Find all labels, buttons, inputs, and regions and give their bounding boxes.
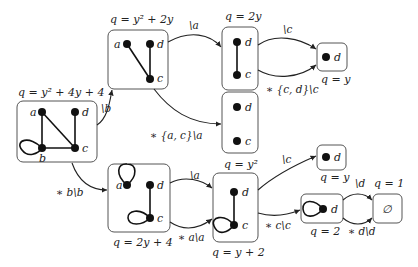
box-f: a d c q = 2y + 4 bbox=[108, 164, 173, 249]
vertex-label-a: a bbox=[116, 179, 123, 192]
transition-label: ∗ c\c bbox=[265, 219, 291, 231]
vertex-a bbox=[38, 108, 46, 116]
transition-label: ∗ {a, c}\a bbox=[150, 129, 202, 142]
box-j: ∅ q = 1 bbox=[373, 177, 404, 223]
vertex-label-d: d bbox=[245, 101, 252, 114]
label-d: q = y bbox=[321, 73, 351, 86]
transition-i-j-star bbox=[343, 218, 372, 224]
vertex-c bbox=[71, 144, 79, 152]
transition-label: ∗ {c, d}\c bbox=[266, 83, 319, 96]
transition-b-e bbox=[154, 89, 221, 124]
transition-label: \c bbox=[282, 153, 292, 165]
vertex-label-d: d bbox=[242, 186, 249, 199]
vertex-label-c: c bbox=[82, 142, 88, 155]
box-i: d q = 2 bbox=[301, 194, 343, 238]
transition-label: ∗ d\d bbox=[348, 225, 376, 237]
vertex-label-d: d bbox=[334, 51, 341, 64]
transition-label: \a bbox=[189, 19, 199, 31]
vertex-b bbox=[38, 144, 46, 152]
box-g: d c q = y + 2 bbox=[212, 173, 265, 259]
box-a: q = y² + 4y + 4 a d b c bbox=[17, 86, 105, 165]
box-b: q = y² + 2y a d c bbox=[108, 13, 174, 89]
empty-set: ∅ bbox=[382, 203, 392, 216]
label-f: q = 2y + 4 bbox=[113, 236, 173, 249]
transition-c-d bbox=[258, 38, 316, 49]
vertex-label-d: d bbox=[331, 203, 338, 216]
vertex-label-c: c bbox=[157, 72, 163, 85]
label-c: q = 2y bbox=[225, 10, 262, 23]
box-c: q = 2y d c bbox=[222, 10, 262, 90]
label-b: q = y² + 2y bbox=[110, 13, 174, 26]
label-h: q = y bbox=[320, 171, 350, 184]
vertex-label-d: d bbox=[157, 179, 164, 192]
transition-label: \b bbox=[101, 102, 112, 114]
label-j: q = 1 bbox=[374, 177, 404, 190]
vertex-d bbox=[71, 108, 79, 116]
vertex-label-d: d bbox=[157, 38, 164, 51]
vertex-label-d: d bbox=[82, 106, 89, 119]
graph-diagram: q = y² + 4y + 4 a d b c q = y² + 2y a d … bbox=[0, 0, 418, 267]
vertex-label-d: d bbox=[334, 151, 341, 164]
vertex-label-a: a bbox=[30, 106, 37, 119]
transition-g-i bbox=[258, 210, 300, 215]
box-h: d q = y bbox=[317, 145, 350, 184]
transition-i-j bbox=[343, 194, 372, 200]
vertex-label-c: c bbox=[157, 212, 163, 225]
transition-c-d-star bbox=[258, 65, 316, 76]
vertex-label-c: c bbox=[242, 219, 248, 232]
vertex-label-a: a bbox=[114, 38, 121, 51]
box-d: d q = y bbox=[317, 43, 351, 86]
label-g: q = y + 2 bbox=[212, 246, 265, 259]
label-a: q = y² + 4y + 4 bbox=[18, 86, 105, 99]
vertex-label-b: b bbox=[39, 152, 46, 165]
transition-f-g-star bbox=[170, 219, 212, 228]
vertex-label-d: d bbox=[245, 36, 252, 49]
label-e: q = y² bbox=[224, 158, 258, 171]
transition-b-c bbox=[168, 35, 221, 47]
transition-label: ∗ a\a bbox=[178, 231, 205, 243]
box-e: d c q = y² bbox=[222, 92, 258, 171]
vertex-label-c: c bbox=[245, 68, 251, 81]
transition-label: \a bbox=[190, 169, 200, 181]
transition-label: \d bbox=[355, 177, 366, 189]
vertex-label-c: c bbox=[245, 135, 251, 148]
label-i: q = 2 bbox=[310, 225, 340, 238]
transition-label: \c bbox=[283, 23, 293, 35]
transition-label: ∗ b\b bbox=[56, 186, 84, 198]
